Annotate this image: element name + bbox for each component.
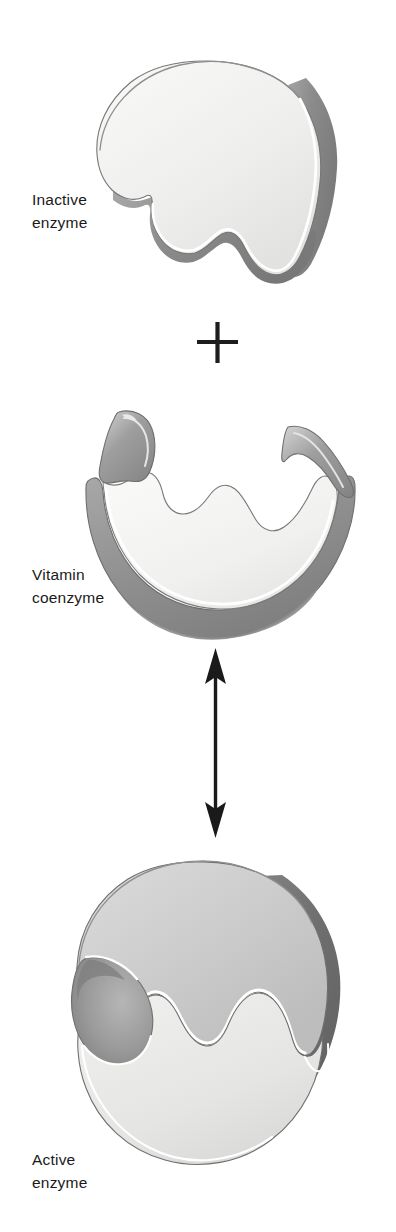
label-vitamin-coenzyme-line2: coenzyme — [32, 589, 104, 606]
label-inactive-enzyme-line2: enzyme — [32, 214, 87, 231]
label-vitamin-coenzyme-line1: Vitamin — [32, 566, 85, 583]
label-active-enzyme-line2: enzyme — [32, 1174, 87, 1191]
enzyme-activation-figure: Inactive enzyme + — [0, 0, 396, 1232]
diagram-canvas: Inactive enzyme + — [0, 0, 396, 1232]
label-active-enzyme-line1: Active — [32, 1151, 75, 1168]
label-inactive-enzyme-line1: Inactive — [32, 191, 87, 208]
